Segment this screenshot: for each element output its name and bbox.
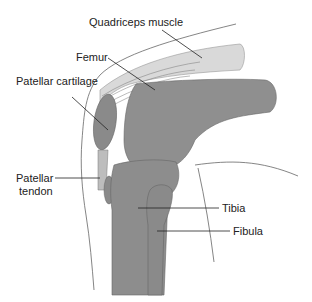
knee-illustration bbox=[0, 0, 312, 302]
skin-outline-back bbox=[195, 162, 298, 176]
femur-shape bbox=[124, 79, 276, 172]
fibula-shape bbox=[147, 185, 173, 295]
label-fibula: Fibula bbox=[233, 225, 263, 238]
label-patellar-cartilage: Patellar cartilage bbox=[16, 75, 98, 88]
label-quadriceps-muscle: Quadriceps muscle bbox=[89, 16, 183, 29]
calf-outline bbox=[198, 168, 214, 262]
tibia-shape bbox=[111, 160, 179, 295]
patella-shape bbox=[90, 93, 120, 152]
label-patellar-tendon-line2: tendon bbox=[19, 185, 53, 198]
label-femur: Femur bbox=[76, 51, 108, 64]
label-patellar-tendon-line1: Patellar bbox=[16, 172, 53, 185]
label-tibia: Tibia bbox=[222, 202, 245, 215]
knee-anatomy-diagram: Quadriceps muscle Femur Patellar cartila… bbox=[0, 0, 312, 302]
